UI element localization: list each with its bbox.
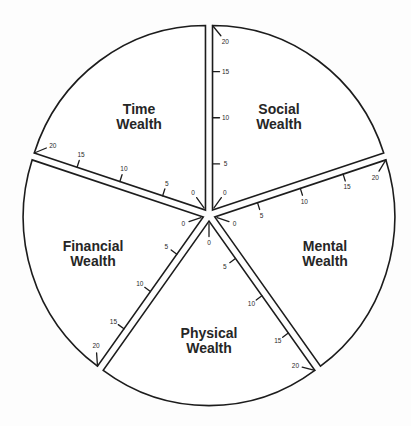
tick-label: 5 — [224, 160, 228, 167]
tick-label: 20 — [49, 142, 57, 149]
wealth-wheel-diagram: 05101520SocialWealth05101520TimeWealth05… — [0, 0, 411, 426]
tick-label: 15 — [77, 151, 85, 158]
tick-label: 0 — [223, 189, 227, 196]
wedge-label-line2: Wealth — [302, 253, 348, 269]
tick-label: 5 — [165, 243, 169, 250]
tick-label: 5 — [165, 180, 169, 187]
tick-label: 20 — [92, 342, 100, 349]
wedge-label-line1: Financial — [63, 238, 124, 254]
tick-mark — [97, 353, 98, 366]
tick-label: 15 — [343, 183, 351, 190]
tick-label: 15 — [110, 318, 118, 325]
tick-label: 5 — [223, 263, 227, 270]
wedge-label-financial: FinancialWealth — [63, 238, 124, 269]
tick-label: 20 — [222, 38, 230, 45]
tick-label: 10 — [136, 280, 144, 287]
tick-label: 5 — [260, 212, 264, 219]
tick-label: 10 — [120, 165, 128, 172]
wedge-label-line1: Social — [258, 101, 299, 117]
tick-label: 0 — [207, 239, 211, 246]
wedge-label-social: SocialWealth — [256, 101, 302, 132]
wedge-label-line1: Time — [123, 101, 156, 117]
tick-label: 10 — [248, 300, 256, 307]
tick-label: 10 — [301, 198, 309, 205]
wedge-label-mental: MentalWealth — [302, 238, 348, 269]
tick-label: 20 — [372, 174, 380, 181]
tick-label: 15 — [274, 337, 282, 344]
wedge-label-line2: Wealth — [70, 253, 116, 269]
wedge-label-line1: Physical — [181, 325, 238, 341]
wedge-label-time: TimeWealth — [116, 101, 162, 132]
tick-label: 10 — [222, 114, 230, 121]
wedge-label-physical: PhysicalWealth — [181, 325, 238, 356]
wedge-label-line2: Wealth — [116, 116, 162, 132]
tick-label: 20 — [292, 362, 300, 369]
wedge-label-line2: Wealth — [256, 116, 302, 132]
tick-label: 15 — [222, 68, 230, 75]
wedge-label-line2: Wealth — [186, 340, 232, 356]
tick-label: 0 — [191, 189, 195, 196]
tick-label: 0 — [233, 220, 237, 227]
tick-label: 0 — [182, 220, 186, 227]
wedge-label-line1: Mental — [303, 238, 347, 254]
